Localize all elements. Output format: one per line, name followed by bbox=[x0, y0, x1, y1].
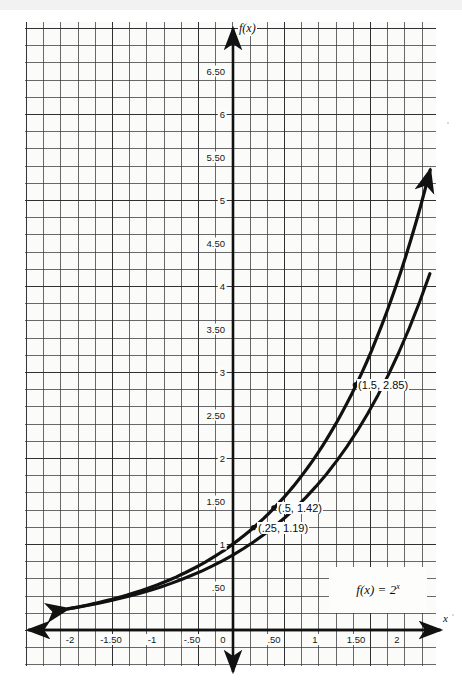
curve-f-of-x bbox=[68, 63, 430, 609]
x-tick-label-1: 1 bbox=[310, 634, 319, 645]
x-tick-label--1: -1 bbox=[146, 634, 158, 645]
y-tick-label-0.50: .50 bbox=[210, 582, 227, 593]
y-tick-label-6: 6 bbox=[218, 109, 227, 120]
y-tick-label-1.50: 1.50 bbox=[205, 496, 228, 507]
function-equation: f(x) = 2x bbox=[356, 582, 399, 598]
function-label-box: f(x) = 2x bbox=[329, 567, 427, 613]
annotation-point-0-25: (.25, 1.19) bbox=[257, 522, 309, 534]
x-axis-title: x bbox=[443, 612, 448, 624]
y-tick-label-5.50: 5.50 bbox=[205, 152, 228, 163]
curve-with-arrows bbox=[70, 323, 430, 609]
point-marker-2 bbox=[271, 505, 276, 510]
x-tick-label--0.50: -.50 bbox=[182, 634, 202, 645]
point-marker-1 bbox=[251, 525, 256, 530]
scan-speck bbox=[452, 614, 454, 616]
curve-visible bbox=[68, 63, 417, 609]
y-tick-label-4: 4 bbox=[218, 281, 227, 292]
x-tick-label-0: 0 bbox=[218, 634, 227, 645]
y-tick-label-2: 2 bbox=[218, 453, 227, 464]
y-tick-label-5: 5 bbox=[218, 195, 227, 206]
y-tick-label-4.50: 4.50 bbox=[205, 238, 228, 249]
y-tick-label-2.50: 2.50 bbox=[205, 410, 228, 421]
y-tick-label-6.50: 6.50 bbox=[205, 66, 228, 77]
figure-page: 6.50 6 5.50 5 4.50 4 3.50 3 2.50 2 1.50 … bbox=[0, 0, 462, 692]
x-tick-label--2: -2 bbox=[64, 634, 76, 645]
x-tick-label-1.50: 1.50 bbox=[345, 634, 368, 645]
curve-final bbox=[68, 274, 430, 609]
y-tick-label-3: 3 bbox=[218, 367, 227, 378]
annotation-point-0-5: (.5, 1.42) bbox=[277, 502, 323, 514]
annotation-point-1-5: (1.5, 2.85) bbox=[357, 379, 409, 391]
scan-speck bbox=[447, 122, 449, 124]
y-tick-label-1: 1 bbox=[218, 539, 227, 550]
x-tick-label--1.50: -1.50 bbox=[98, 634, 124, 645]
function-exponent: x bbox=[396, 582, 400, 591]
y-tick-label-3.50: 3.50 bbox=[205, 324, 228, 335]
x-tick-label-2: 2 bbox=[392, 634, 401, 645]
curve-stroke bbox=[68, 66, 414, 609]
function-equation-text: f(x) = 2 bbox=[356, 582, 396, 597]
curve-line bbox=[68, 255, 430, 609]
exponential-curve bbox=[68, 544, 233, 609]
exp-curve bbox=[70, 323, 430, 609]
y-axis-title: f(x) bbox=[238, 21, 257, 36]
x-tick-label-0.50: .50 bbox=[265, 634, 282, 645]
